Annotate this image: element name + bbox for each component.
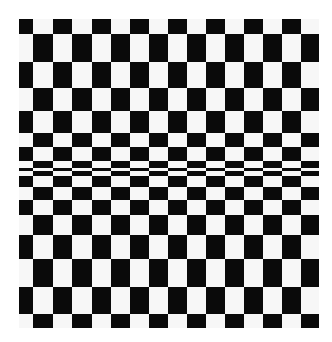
dark-square <box>33 133 53 147</box>
light-square <box>263 235 282 259</box>
dark-square <box>92 176 111 187</box>
light-square <box>111 200 130 215</box>
light-square <box>19 133 33 147</box>
dark-square <box>263 88 282 111</box>
board-row <box>0 19 332 34</box>
dark-square <box>244 200 263 215</box>
light-square <box>168 314 187 328</box>
dark-square <box>244 19 263 34</box>
light-square <box>301 235 319 259</box>
dark-square <box>33 34 53 62</box>
dark-square <box>53 200 72 215</box>
dark-square <box>92 147 111 161</box>
light-square <box>244 34 263 62</box>
dark-square <box>168 287 187 314</box>
light-square <box>206 187 225 200</box>
light-square <box>263 111 282 133</box>
dark-square <box>72 34 92 62</box>
board-row <box>0 215 332 235</box>
dark-square <box>92 200 111 215</box>
light-square <box>19 314 33 328</box>
dark-square <box>206 147 225 161</box>
light-square <box>111 19 130 34</box>
dark-square <box>206 176 225 187</box>
board-row <box>0 259 332 287</box>
dark-square <box>130 235 149 259</box>
light-square <box>72 62 92 88</box>
light-square <box>225 287 244 314</box>
light-square <box>33 287 53 314</box>
dark-square <box>53 176 72 187</box>
light-square <box>130 187 149 200</box>
light-square <box>263 19 282 34</box>
light-square <box>263 176 282 187</box>
light-square <box>263 147 282 161</box>
dark-square <box>149 133 168 147</box>
light-square <box>92 259 111 287</box>
light-square <box>72 111 92 133</box>
dark-square <box>111 314 130 328</box>
dark-square <box>168 176 187 187</box>
light-square <box>149 235 168 259</box>
dark-square <box>33 88 53 111</box>
light-square <box>111 147 130 161</box>
dark-square <box>111 34 130 62</box>
light-square <box>225 19 244 34</box>
light-square <box>19 187 33 200</box>
light-square <box>187 176 206 187</box>
dark-square <box>225 88 244 111</box>
light-square <box>244 161 263 168</box>
light-square <box>53 187 72 200</box>
dark-square <box>130 176 149 187</box>
board-row <box>0 287 332 314</box>
dark-square <box>111 215 130 235</box>
light-square <box>149 111 168 133</box>
dark-square <box>130 287 149 314</box>
light-square <box>282 133 301 147</box>
light-square <box>53 215 72 235</box>
dark-square <box>282 235 301 259</box>
dark-square <box>19 111 33 133</box>
light-square <box>53 161 72 168</box>
dark-square <box>111 187 130 200</box>
board-row <box>0 62 332 88</box>
dark-square <box>19 176 33 187</box>
dark-square <box>19 235 33 259</box>
dark-square <box>111 161 130 168</box>
dark-square <box>244 111 263 133</box>
light-square <box>33 111 53 133</box>
light-square <box>149 287 168 314</box>
light-square <box>92 133 111 147</box>
dark-square <box>225 259 244 287</box>
dark-square <box>130 147 149 161</box>
dark-square <box>282 176 301 187</box>
dark-square <box>225 187 244 200</box>
dark-square <box>149 88 168 111</box>
light-square <box>244 133 263 147</box>
light-square <box>53 259 72 287</box>
light-square <box>301 111 319 133</box>
light-square <box>130 314 149 328</box>
light-square <box>33 176 53 187</box>
light-square <box>244 314 263 328</box>
light-square <box>72 19 92 34</box>
dark-square <box>168 19 187 34</box>
dark-square <box>225 133 244 147</box>
dark-square <box>206 235 225 259</box>
board-row <box>0 111 332 133</box>
light-square <box>92 215 111 235</box>
board-row <box>0 187 332 200</box>
dark-square <box>149 314 168 328</box>
dark-square <box>301 187 319 200</box>
light-square <box>225 62 244 88</box>
dark-square <box>206 62 225 88</box>
dark-square <box>301 161 319 168</box>
dark-square <box>301 34 319 62</box>
dark-square <box>282 111 301 133</box>
dark-square <box>72 314 92 328</box>
dark-square <box>53 19 72 34</box>
light-square <box>111 287 130 314</box>
light-square <box>33 147 53 161</box>
light-square <box>149 19 168 34</box>
dark-square <box>282 200 301 215</box>
